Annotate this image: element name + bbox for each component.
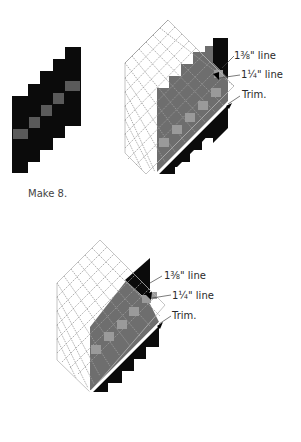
line-label-1-1-4: 1¼" line (172, 291, 214, 301)
line-label-1-3-8: 1⅜" line (234, 51, 276, 61)
trim-diagram-step3 (57, 240, 171, 393)
trim-label: Trim. (172, 311, 196, 321)
diagram-canvas (0, 0, 301, 442)
strip-set-step1 (12, 47, 81, 173)
make-count-caption: Make 8. (28, 188, 67, 199)
trim-diagram-step2 (125, 20, 240, 174)
line-label-1-1-4: 1¼" line (241, 70, 283, 80)
trim-label: Trim. (242, 90, 266, 100)
line-label-1-3-8: 1⅜" line (164, 271, 206, 281)
